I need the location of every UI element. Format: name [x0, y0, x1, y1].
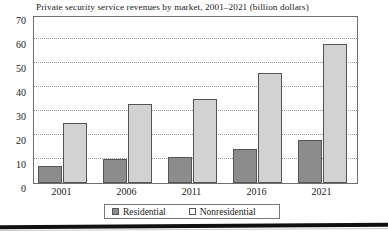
plot-frame [33, 16, 358, 184]
bar-group [168, 17, 217, 183]
x-tick-label: 2021 [312, 186, 332, 198]
bar[interactable] [323, 44, 347, 183]
x-tick-label: 2011 [182, 186, 202, 198]
legend-swatch-icon [112, 208, 119, 215]
bars-layer [34, 17, 357, 183]
bar-group [233, 17, 282, 183]
bar[interactable] [258, 73, 282, 183]
bar[interactable] [298, 140, 322, 183]
x-tick-label: 2016 [247, 186, 267, 198]
chart-title: Private security service revenues by mar… [36, 1, 366, 13]
x-axis: 20012006201120162021 [33, 186, 358, 200]
legend-label: Residential [123, 207, 166, 217]
bar[interactable] [193, 99, 217, 183]
legend-swatch-icon [189, 208, 196, 215]
bar[interactable] [103, 159, 127, 183]
legend-label: Nonresidential [200, 207, 256, 217]
bar[interactable] [168, 157, 192, 183]
bar[interactable] [233, 149, 257, 183]
chart-legend: ResidentialNonresidential [104, 204, 280, 219]
x-tick-label: 2001 [52, 186, 72, 198]
bar[interactable] [128, 104, 152, 183]
bar-group [38, 17, 87, 183]
legend-entry[interactable]: Nonresidential [189, 207, 256, 217]
bar-group [103, 17, 152, 183]
y-axis: 010203040506070 [0, 16, 30, 184]
legend-entry[interactable]: Residential [112, 207, 166, 217]
bar-group [298, 17, 347, 183]
bar[interactable] [38, 166, 62, 183]
x-tick-label: 2006 [117, 186, 137, 198]
bar[interactable] [63, 123, 87, 183]
